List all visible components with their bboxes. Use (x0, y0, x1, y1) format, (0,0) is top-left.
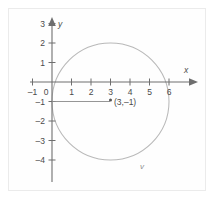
y-axis-arrow-icon (48, 17, 56, 26)
y-tick-label-3: 3 (40, 19, 45, 29)
x-tick-label-0: 0 (44, 87, 49, 97)
x-axis-label: x (183, 65, 189, 75)
y-axis-label: y (57, 19, 63, 29)
center-point-marker (109, 99, 112, 102)
x-tick-label-2: 2 (89, 87, 94, 97)
x-tick-label-1: 1 (69, 87, 74, 97)
curve-label: v (140, 162, 145, 171)
coordinate-plot: –1 0 1 2 3 4 5 6 3 2 1 –1 –2 –3 –4 x y (… (0, 0, 214, 199)
x-tick-label-3: 3 (108, 87, 113, 97)
y-tick-label-2: 2 (40, 38, 45, 48)
y-tick-label-neg3: –3 (36, 136, 46, 146)
y-tick-label-neg4: –4 (36, 155, 46, 165)
y-tick-label-neg1: –1 (36, 97, 46, 107)
x-tick-label-4: 4 (128, 87, 133, 97)
center-point-label: (3,–1) (114, 97, 136, 107)
x-tick-label-6: 6 (167, 87, 172, 97)
x-tick-label-neg1: –1 (28, 87, 38, 97)
coordinate-plane-figure: –1 0 1 2 3 4 5 6 3 2 1 –1 –2 –3 –4 x y (… (0, 0, 214, 199)
x-axis-arrow-icon (189, 78, 198, 86)
y-tick-label-1: 1 (40, 58, 45, 68)
y-tick-label-neg2: –2 (36, 116, 46, 126)
x-tick-label-5: 5 (147, 87, 152, 97)
